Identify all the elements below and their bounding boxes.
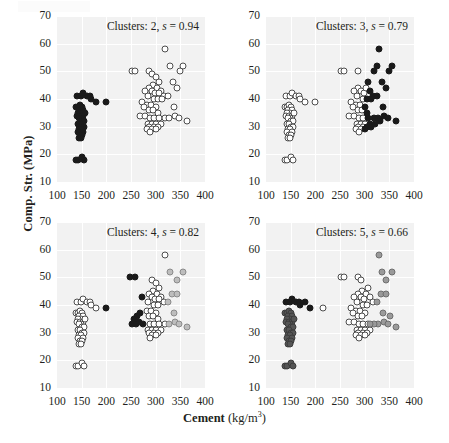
x-tick-label: 400 [405, 396, 422, 408]
data-point [340, 274, 347, 281]
gridline-horizontal [266, 250, 414, 251]
gridline-horizontal [266, 222, 414, 223]
data-point [355, 335, 362, 342]
y-tick-label: 20 [232, 354, 260, 366]
x-tick-label: 250 [331, 396, 348, 408]
data-point [383, 277, 390, 284]
x-tick-label: 150 [282, 396, 299, 408]
x-tick-label: 100 [257, 396, 274, 408]
data-point [286, 340, 293, 347]
panel-clusters-5: 10203040506070100150200250300350400Clust… [0, 0, 449, 443]
y-tick-label: 50 [232, 271, 260, 283]
figure-root: Comp. Str. (MPa) Cement (kg/m3) 10203040… [0, 0, 449, 443]
y-tick-label: 60 [232, 244, 260, 256]
y-tick-label: 70 [232, 216, 260, 228]
data-point [358, 313, 365, 320]
data-point [357, 277, 364, 284]
data-point [364, 285, 371, 292]
data-point [366, 321, 373, 328]
x-tick-label: 300 [356, 396, 373, 408]
panel-annotation: Clusters: 5, s = 0.66 [266, 226, 408, 238]
data-point [385, 321, 392, 328]
data-point [374, 299, 381, 306]
x-tick-label: 350 [381, 396, 398, 408]
data-point [389, 268, 396, 275]
plot-area [266, 222, 414, 388]
y-tick-label: 10 [232, 382, 260, 394]
data-point [319, 304, 326, 311]
data-point [307, 304, 314, 311]
data-point [387, 313, 394, 320]
data-point [290, 362, 297, 369]
data-point [376, 252, 383, 259]
data-point [393, 324, 400, 331]
data-point [379, 268, 386, 275]
data-point [382, 290, 389, 297]
y-tick-label: 30 [232, 327, 260, 339]
x-tick-label: 200 [307, 396, 324, 408]
y-tick-label: 40 [232, 299, 260, 311]
